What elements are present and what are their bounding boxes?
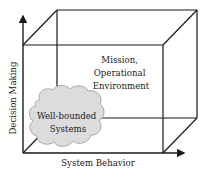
y-axis-label: Decision Making	[8, 61, 18, 135]
x-axis-label: System Behavior	[61, 158, 135, 168]
outer-region-label: Mission, Operational Environment	[93, 55, 150, 91]
cube-diagram: Mission, Operational Environment Well-bo…	[0, 0, 208, 177]
